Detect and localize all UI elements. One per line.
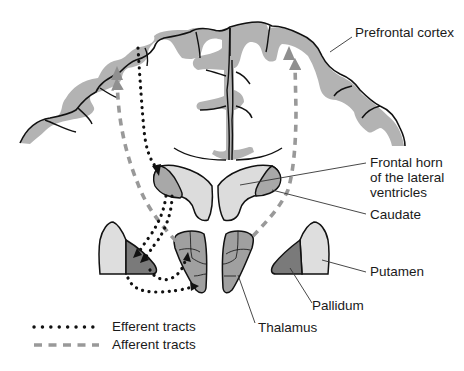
label-prefrontal-cortex: Prefrontal cortex [355,25,454,40]
prefrontal-cortex [20,22,405,160]
legend-efferent-label: Efferent tracts [112,319,196,334]
lentiform-nucleus-left [99,222,157,274]
label-putamen: Putamen [370,264,424,279]
label-frontal-horn-line1: Frontal horn [370,155,464,170]
afferent-arrowhead-right [283,46,295,60]
efferent-caudate-to-pallidum-1 [138,196,166,254]
legend-afferent-label: Afferent tracts [112,337,196,352]
leader-prefrontal-cortex [330,37,352,52]
left-putamen [99,222,126,274]
label-caudate: Caudate [370,207,421,222]
efferent-cortex-to-caudate [138,48,158,170]
label-thalamus: Thalamus [258,320,317,335]
label-frontal-horn-line3: ventricles [370,185,464,200]
label-pallidum: Pallidum [312,298,364,313]
right-pallidum [272,240,302,274]
leader-thalamus [238,275,255,323]
legend-swatches [34,327,99,345]
leader-caudate [272,190,366,214]
left-pallidum [126,240,156,274]
label-frontal-horn-line2: of the lateral [370,170,464,185]
right-putamen [300,222,329,274]
lentiform-nucleus-right [272,222,330,274]
label-frontal-horn: Frontal horn of the lateral ventricles [370,155,464,200]
